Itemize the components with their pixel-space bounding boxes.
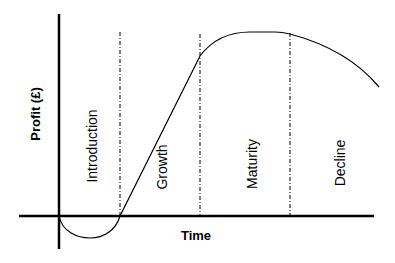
product-life-cycle-diagram: Profit (£) Time Introduction Growth Matu… [0,0,395,263]
stage-label-growth: Growth [154,144,170,189]
y-axis-label: Profit (£) [28,87,43,140]
stage-label-decline: Decline [332,139,348,186]
stage-label-maturity: Maturity [244,139,260,189]
profit-curve [59,32,379,238]
stage-label-introduction: Introduction [84,109,100,182]
x-axis-label: Time [181,228,211,243]
